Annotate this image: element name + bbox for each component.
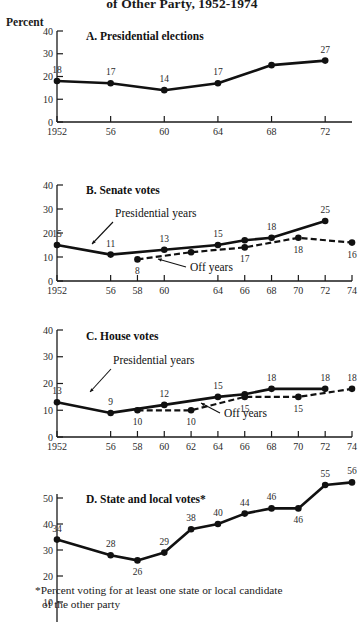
data-label-C-1-0: 10 — [133, 417, 143, 427]
panel-B: B. Senate votes0102030401952565860646668… — [43, 180, 357, 296]
data-label-D-0-7: 46 — [267, 492, 277, 502]
data-point-C-0-0[interactable] — [54, 399, 61, 406]
data-point-D-0-8[interactable] — [295, 505, 302, 512]
data-point-B-1-2[interactable] — [241, 244, 248, 251]
x-tick-label-C-1970: 70 — [293, 441, 303, 452]
annot-off-years-C-text: Off years — [224, 407, 267, 420]
data-point-A-0-1[interactable] — [107, 80, 114, 87]
y-tick-label-C-30: 30 — [43, 351, 53, 362]
data-label-D-0-10: 56 — [347, 466, 357, 476]
data-point-C-0-2[interactable] — [161, 402, 168, 409]
data-point-D-0-2[interactable] — [134, 557, 141, 564]
data-point-A-0-5[interactable] — [322, 57, 329, 64]
data-point-B-0-0[interactable] — [54, 242, 61, 249]
data-label-B-0-5: 18 — [267, 222, 277, 232]
data-label-B-0-0: 15 — [52, 229, 62, 239]
data-point-B-0-3[interactable] — [215, 242, 222, 249]
data-point-D-0-7[interactable] — [268, 505, 275, 512]
data-label-B-0-1: 11 — [106, 239, 115, 249]
data-point-D-0-3[interactable] — [161, 549, 168, 556]
data-label-B-1-2: 17 — [240, 254, 250, 264]
x-tick-label-C-1966: 66 — [240, 441, 250, 452]
y-axis-unit-label: Percent — [6, 16, 43, 28]
figure-footnote: *Percent voting for at least one state o… — [35, 583, 355, 612]
panel-title-D: D. State and local votes* — [86, 493, 206, 505]
x-tick-label-C-1952: 1952 — [47, 441, 67, 452]
figure-title: of Other Party, 1952-1974 — [0, 0, 364, 12]
data-point-B-1-4[interactable] — [349, 239, 356, 246]
y-tick-label-D-50: 50 — [43, 493, 53, 504]
x-tick-label-C-1960: 60 — [159, 441, 169, 452]
data-point-C-0-1[interactable] — [107, 410, 114, 417]
data-label-C-0-6: 18 — [320, 373, 330, 383]
data-point-A-0-0[interactable] — [54, 78, 61, 85]
annot-off-years-B: Off years — [158, 258, 233, 274]
y-tick-label-C-10: 10 — [43, 405, 53, 416]
annot-off-years-B-arrow — [158, 259, 186, 267]
data-point-D-0-10[interactable] — [349, 479, 356, 486]
x-tick-label-A-1956: 56 — [106, 126, 116, 137]
y-tick-label-A-40: 40 — [43, 26, 53, 37]
footnote-line-1: *Percent voting for at least one state o… — [35, 584, 283, 596]
annot-off-years-B-text: Off years — [190, 261, 233, 274]
data-point-D-0-5[interactable] — [215, 521, 222, 528]
y-tick-label-B-30: 30 — [43, 204, 53, 215]
data-point-C-1-3[interactable] — [295, 394, 302, 401]
annot-presidential-years-C-arrow — [90, 369, 111, 392]
data-point-D-0-0[interactable] — [54, 536, 61, 543]
x-tick-label-C-1964: 64 — [213, 441, 223, 452]
x-tick-label-C-1974: 74 — [347, 441, 357, 452]
data-point-C-0-6[interactable] — [322, 386, 329, 393]
series-line-A-0 — [57, 61, 325, 91]
data-point-B-1-3[interactable] — [295, 235, 302, 242]
data-point-D-0-6[interactable] — [241, 510, 248, 517]
data-label-B-1-0: 8 — [135, 266, 140, 276]
data-label-C-0-1: 9 — [108, 397, 113, 407]
figure-root: of Other Party, 1952-1974 Percent A. Pre… — [0, 0, 364, 624]
annot-presidential-years-B-text: Presidential years — [115, 207, 197, 220]
y-tick-label-D-30: 30 — [43, 545, 53, 556]
data-label-D-0-8: 46 — [294, 515, 304, 525]
footnote-line-2: of the other party — [35, 597, 355, 611]
y-tick-label-B-40: 40 — [43, 180, 53, 191]
data-label-B-0-2: 13 — [160, 234, 170, 244]
x-tick-label-A-1968: 68 — [267, 126, 277, 137]
data-point-B-0-6[interactable] — [322, 218, 329, 225]
data-label-C-0-3: 15 — [213, 381, 223, 391]
x-tick-label-B-1966: 66 — [240, 285, 250, 296]
data-point-A-0-4[interactable] — [268, 62, 275, 69]
x-tick-label-B-1970: 70 — [293, 285, 303, 296]
data-label-D-0-9: 55 — [320, 469, 330, 479]
data-point-B-0-2[interactable] — [161, 247, 168, 254]
data-point-D-0-1[interactable] — [107, 552, 114, 559]
x-tick-label-B-1958: 58 — [132, 285, 142, 296]
data-point-A-0-3[interactable] — [215, 80, 222, 87]
data-point-C-1-4[interactable] — [349, 386, 356, 393]
data-label-C-1-3: 15 — [294, 404, 304, 414]
data-point-D-0-4[interactable] — [188, 526, 195, 533]
data-point-B-0-5[interactable] — [268, 235, 275, 242]
data-label-A-0-3: 17 — [213, 67, 223, 77]
data-point-C-1-2[interactable] — [241, 394, 248, 401]
data-point-A-0-2[interactable] — [161, 87, 168, 94]
data-label-A-0-5: 27 — [320, 45, 330, 55]
x-tick-label-B-1972: 72 — [320, 285, 330, 296]
x-tick-label-A-1964: 64 — [213, 126, 223, 137]
data-label-A-0-1: 17 — [106, 67, 116, 77]
y-tick-label-A-10: 10 — [43, 94, 53, 105]
x-tick-label-C-1968: 68 — [267, 441, 277, 452]
data-point-C-0-5[interactable] — [268, 386, 275, 393]
data-point-B-1-0[interactable] — [134, 256, 141, 263]
data-point-C-0-3[interactable] — [215, 394, 222, 401]
annot-presidential-years-C: Presidential years — [90, 354, 195, 392]
y-tick-label-B-10: 10 — [43, 252, 53, 263]
data-point-B-0-4[interactable] — [241, 237, 248, 244]
data-point-D-0-9[interactable] — [322, 482, 329, 489]
x-tick-label-C-1956: 56 — [106, 441, 116, 452]
data-point-C-1-1[interactable] — [188, 407, 195, 414]
data-label-D-0-6: 44 — [240, 498, 250, 508]
data-point-C-1-0[interactable] — [134, 407, 141, 414]
data-point-B-0-1[interactable] — [107, 251, 114, 258]
data-point-B-1-1[interactable] — [188, 249, 195, 256]
data-label-D-0-3: 29 — [160, 537, 170, 547]
